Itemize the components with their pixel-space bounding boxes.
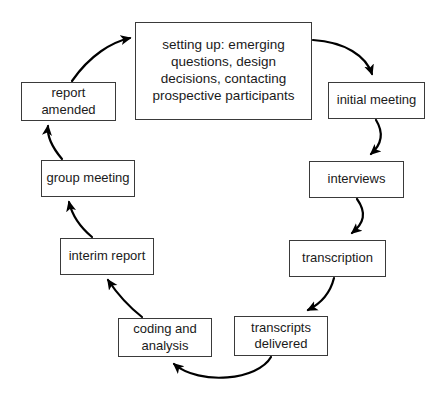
node-report-amended-label: report amended	[22, 85, 115, 118]
node-interviews: interviews	[309, 161, 404, 198]
node-setting-up-label: setting up: emerging questions, design d…	[136, 37, 311, 105]
edge-group-meeting-to-report-amended	[48, 126, 62, 159]
edge-interviews-to-transcription	[352, 199, 363, 233]
node-interviews-label: interviews	[310, 171, 403, 187]
node-group-meeting-label: group meeting	[42, 170, 134, 186]
node-initial-meeting: initial meeting	[328, 82, 425, 119]
edge-transcription-to-transcripts-delivered	[308, 278, 334, 310]
edge-report-amended-to-setting-up	[72, 38, 130, 81]
node-interim-report: interim report	[60, 238, 154, 275]
edge-setting-up-to-initial-meeting	[313, 40, 372, 74]
edge-interim-report-to-group-meeting	[69, 202, 92, 237]
node-initial-meeting-label: initial meeting	[329, 92, 424, 108]
edge-coding-analysis-to-interim-report	[108, 280, 142, 317]
node-transcription: transcription	[289, 240, 386, 277]
diagram-canvas: setting up: emerging questions, design d…	[0, 0, 444, 402]
node-transcription-label: transcription	[290, 250, 385, 266]
edge-transcripts-delivered-to-coding-analysis	[174, 357, 271, 378]
node-report-amended: report amended	[21, 82, 116, 121]
edge-initial-meeting-to-interviews	[371, 120, 381, 154]
node-coding-and-analysis: coding and analysis	[118, 318, 212, 357]
node-transcripts-delivered: transcripts delivered	[234, 316, 328, 356]
node-coding-and-analysis-label: coding and analysis	[119, 321, 211, 354]
node-group-meeting: group meeting	[41, 160, 135, 197]
node-transcripts-delivered-label: transcripts delivered	[235, 320, 327, 353]
node-interim-report-label: interim report	[61, 248, 153, 264]
node-setting-up: setting up: emerging questions, design d…	[135, 22, 312, 120]
